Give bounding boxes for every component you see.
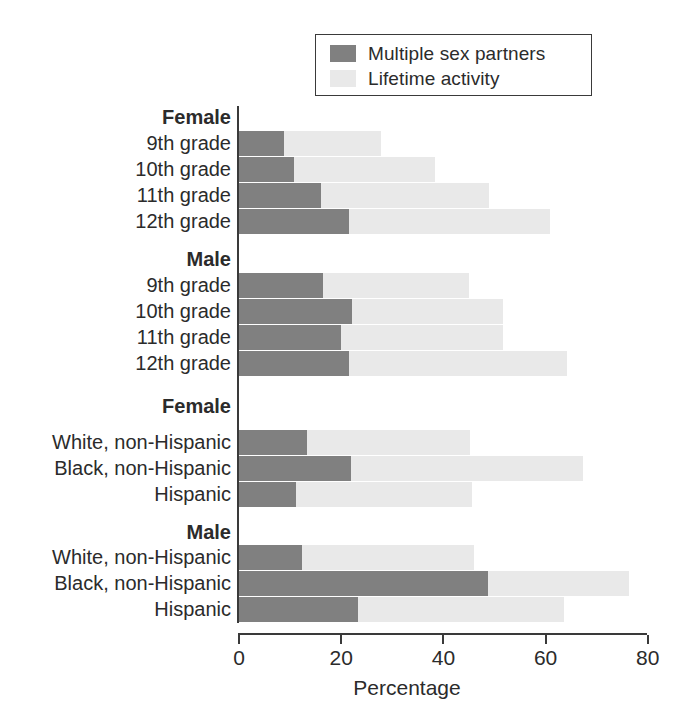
group-heading-label: Female (0, 104, 231, 130)
category-label: Hispanic (0, 597, 231, 622)
chart-row: 11th grade (0, 183, 694, 208)
category-label: 12th grade (0, 351, 231, 376)
bar-segment-multiple-sex-partners (239, 482, 296, 507)
x-axis-tick-label: 0 (233, 646, 245, 670)
category-label: Hispanic (0, 482, 231, 507)
bar-segment-lifetime-activity (294, 157, 436, 182)
stacked-bar (239, 597, 564, 622)
x-axis-label: Percentage (120, 676, 694, 700)
stacked-bar-chart: Female9th grade10th grade11th grade12th … (0, 0, 694, 723)
bar-segment-lifetime-activity (349, 209, 550, 234)
stacked-bar (239, 183, 489, 208)
group-heading-label: Female (0, 393, 231, 419)
bar-segment-lifetime-activity (307, 430, 470, 455)
bar-segment-multiple-sex-partners (239, 456, 351, 481)
bar-segment-lifetime-activity (352, 299, 502, 324)
bar-segment-multiple-sex-partners (239, 597, 358, 622)
category-label: Black, non-Hispanic (0, 456, 231, 481)
stacked-bar (239, 456, 583, 481)
x-axis-tick (647, 635, 649, 644)
chart-row: 10th grade (0, 299, 694, 324)
category-label: 9th grade (0, 273, 231, 298)
bar-segment-multiple-sex-partners (239, 131, 284, 156)
chart-row: Hispanic (0, 482, 694, 507)
group-heading-label: Male (0, 519, 231, 545)
bar-segment-multiple-sex-partners (239, 351, 349, 376)
category-label: White, non-Hispanic (0, 545, 231, 570)
x-axis-tick-label: 20 (330, 646, 353, 670)
chart-row: 11th grade (0, 325, 694, 350)
group-heading: Male (0, 519, 694, 545)
stacked-bar (239, 325, 503, 350)
category-label: 12th grade (0, 209, 231, 234)
bar-segment-multiple-sex-partners (239, 273, 323, 298)
stacked-bar (239, 209, 550, 234)
x-axis-tick-label: 80 (636, 646, 659, 670)
bar-segment-multiple-sex-partners (239, 157, 294, 182)
bar-segment-multiple-sex-partners (239, 571, 488, 596)
x-axis-tick (340, 635, 342, 644)
bar-segment-lifetime-activity (488, 571, 629, 596)
bar-segment-lifetime-activity (341, 325, 502, 350)
stacked-bar (239, 571, 629, 596)
category-label: Black, non-Hispanic (0, 571, 231, 596)
x-axis-tick (545, 635, 547, 644)
category-label: 11th grade (0, 183, 231, 208)
chart-row: 9th grade (0, 131, 694, 156)
stacked-bar (239, 430, 470, 455)
x-axis-tick-label: 40 (432, 646, 455, 670)
stacked-bar (239, 131, 381, 156)
bar-segment-multiple-sex-partners (239, 183, 321, 208)
stacked-bar (239, 482, 472, 507)
stacked-bar (239, 157, 435, 182)
bar-segment-multiple-sex-partners (239, 209, 349, 234)
chart-row: 10th grade (0, 157, 694, 182)
chart-row: Hispanic (0, 597, 694, 622)
bar-segment-lifetime-activity (321, 183, 490, 208)
bar-segment-lifetime-activity (323, 273, 469, 298)
group-heading: Female (0, 104, 694, 130)
group-heading: Female (0, 393, 694, 419)
chart-row: White, non-Hispanic (0, 430, 694, 455)
bar-segment-lifetime-activity (351, 456, 582, 481)
x-axis-tick-label: 60 (534, 646, 557, 670)
category-label: 9th grade (0, 131, 231, 156)
bar-segment-lifetime-activity (302, 545, 474, 570)
category-label: 11th grade (0, 325, 231, 350)
stacked-bar (239, 299, 503, 324)
chart-row: 9th grade (0, 273, 694, 298)
stacked-bar (239, 351, 567, 376)
category-label: 10th grade (0, 299, 231, 324)
bar-segment-multiple-sex-partners (239, 299, 352, 324)
chart-row: White, non-Hispanic (0, 545, 694, 570)
bar-segment-multiple-sex-partners (239, 325, 341, 350)
bar-segment-lifetime-activity (358, 597, 564, 622)
chart-row: 12th grade (0, 351, 694, 376)
chart-row: Black, non-Hispanic (0, 456, 694, 481)
stacked-bar (239, 273, 469, 298)
bar-segment-lifetime-activity (349, 351, 567, 376)
bar-segment-multiple-sex-partners (239, 545, 302, 570)
bar-segment-lifetime-activity (296, 482, 472, 507)
x-axis-tick (442, 635, 444, 644)
bar-segment-multiple-sex-partners (239, 430, 307, 455)
group-heading: Male (0, 246, 694, 272)
bar-segment-lifetime-activity (284, 131, 381, 156)
stacked-bar (239, 545, 474, 570)
category-label: White, non-Hispanic (0, 430, 231, 455)
x-axis-tick (238, 635, 240, 644)
chart-row: 12th grade (0, 209, 694, 234)
category-label: 10th grade (0, 157, 231, 182)
group-heading-label: Male (0, 246, 231, 272)
chart-row: Black, non-Hispanic (0, 571, 694, 596)
